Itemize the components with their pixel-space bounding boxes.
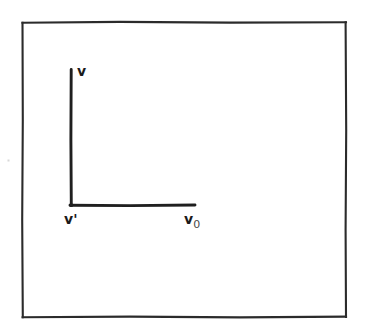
paper-background bbox=[0, 0, 367, 336]
label-v-text: v bbox=[77, 63, 86, 79]
scan-speckle bbox=[8, 160, 10, 162]
label-v-zero: v0 bbox=[184, 212, 200, 230]
border-right-edge bbox=[346, 22, 347, 317]
border-bottom-edge bbox=[23, 317, 346, 318]
axis-corner-vertex bbox=[69, 203, 73, 207]
border-top-edge bbox=[23, 22, 347, 23]
label-v-prime-text: v bbox=[64, 211, 73, 227]
horizontal-axis-line bbox=[70, 205, 195, 206]
label-v-prime: v' bbox=[64, 212, 77, 226]
figure-drawing-canvas bbox=[0, 0, 367, 336]
figure-container: v v' v0 bbox=[0, 0, 367, 336]
prime-mark-icon: ' bbox=[73, 211, 77, 227]
border-left-edge bbox=[22, 23, 23, 317]
label-v: v bbox=[77, 64, 86, 78]
label-v-zero-text: v bbox=[184, 211, 193, 227]
label-v-zero-subscript: 0 bbox=[193, 218, 200, 231]
